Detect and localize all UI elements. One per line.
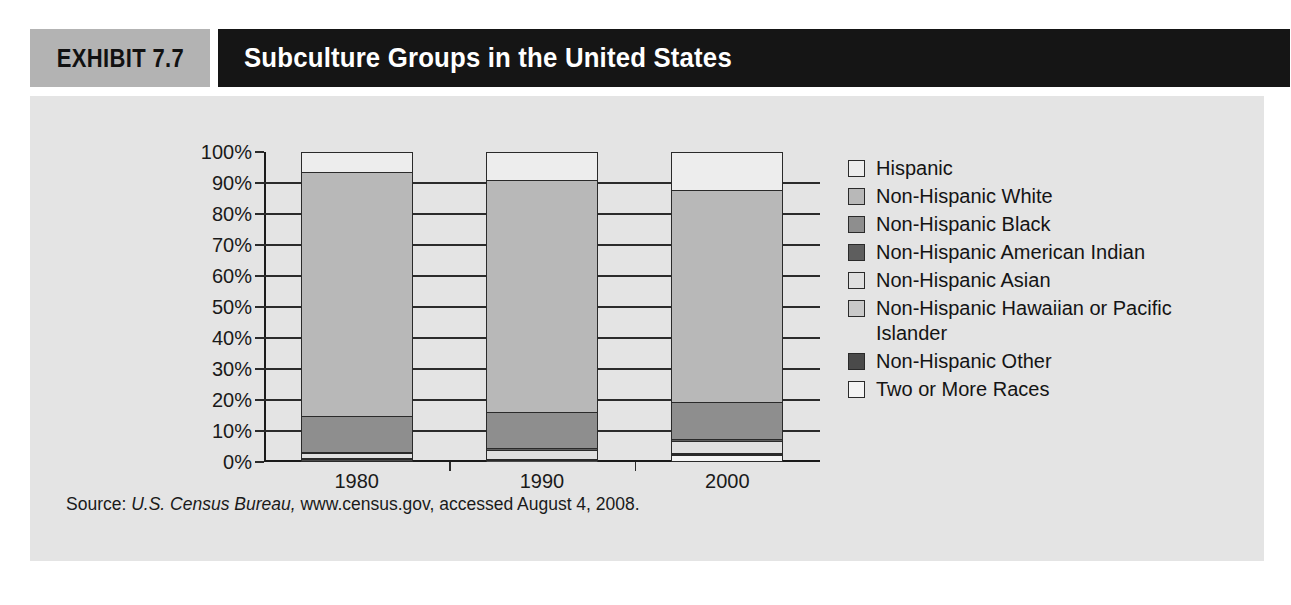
source-publication: U.S. Census Bureau, bbox=[131, 494, 295, 514]
legend-item[interactable]: Non-Hispanic Hawaiian or Pacific Islande… bbox=[848, 296, 1178, 346]
y-tick-label: 90% bbox=[212, 173, 252, 193]
bar-segment[interactable] bbox=[302, 153, 412, 173]
legend-item-label: Non-Hispanic Hawaiian or Pacific Islande… bbox=[876, 296, 1178, 346]
legend-item-label: Two or More Races bbox=[876, 377, 1049, 402]
bar-1990[interactable] bbox=[486, 152, 598, 462]
y-tick-mark bbox=[255, 430, 264, 432]
x-tick-label: 1990 bbox=[520, 470, 565, 493]
bar-segment[interactable] bbox=[672, 403, 782, 440]
y-tick-label: 100% bbox=[201, 142, 252, 162]
legend-item-label: Non-Hispanic Asian bbox=[876, 268, 1051, 293]
exhibit-page: EXHIBIT 7.7 Subculture Groups in the Uni… bbox=[0, 0, 1291, 605]
bar-segment[interactable] bbox=[302, 173, 412, 417]
legend-item-label: Non-Hispanic Other bbox=[876, 349, 1052, 374]
page-title: Subculture Groups in the United States bbox=[244, 42, 732, 74]
legend-item-label: Hispanic bbox=[876, 156, 953, 181]
y-axis-labels: 100%90%80%70%60%50%40%30%20%10%0% bbox=[180, 152, 258, 462]
plot-area bbox=[264, 152, 820, 462]
source-note: Source: U.S. Census Bureau, www.census.g… bbox=[66, 494, 640, 515]
y-tick-label: 20% bbox=[212, 390, 252, 410]
bar-segment[interactable] bbox=[487, 181, 597, 413]
bar-segment[interactable] bbox=[672, 191, 782, 403]
chart-panel: 100%90%80%70%60%50%40%30%20%10%0% 198019… bbox=[30, 96, 1264, 561]
y-tick-label: 0% bbox=[223, 452, 252, 472]
bar-segment[interactable] bbox=[672, 442, 782, 453]
y-tick-mark bbox=[255, 368, 264, 370]
legend-swatch-icon bbox=[848, 216, 865, 233]
exhibit-header: EXHIBIT 7.7 Subculture Groups in the Uni… bbox=[30, 29, 1290, 87]
chart-legend: HispanicNon-Hispanic WhiteNon-Hispanic B… bbox=[848, 156, 1178, 405]
legend-item[interactable]: Non-Hispanic Black bbox=[848, 212, 1178, 237]
exhibit-number-label: EXHIBIT 7.7 bbox=[56, 44, 183, 73]
legend-swatch-icon bbox=[848, 300, 865, 317]
y-tick-mark bbox=[255, 213, 264, 215]
legend-swatch-icon bbox=[848, 188, 865, 205]
legend-item-label: Non-Hispanic American Indian bbox=[876, 240, 1145, 265]
legend-item[interactable]: Non-Hispanic White bbox=[848, 184, 1178, 209]
y-tick-mark bbox=[255, 306, 264, 308]
y-tick-mark bbox=[255, 399, 264, 401]
legend-swatch-icon bbox=[848, 353, 865, 370]
legend-item[interactable]: Non-Hispanic American Indian bbox=[848, 240, 1178, 265]
y-tick-label: 10% bbox=[212, 421, 252, 441]
y-tick-mark bbox=[255, 461, 264, 463]
bar-segment[interactable] bbox=[672, 153, 782, 191]
bar-1980[interactable] bbox=[301, 152, 413, 462]
bar-segment[interactable] bbox=[302, 417, 412, 452]
y-tick-mark bbox=[255, 182, 264, 184]
exhibit-title-bar: Subculture Groups in the United States bbox=[218, 29, 1290, 87]
bar-segment[interactable] bbox=[487, 451, 597, 460]
chart: 100%90%80%70%60%50%40%30%20%10%0% 198019… bbox=[180, 152, 820, 472]
legend-item-label: Non-Hispanic White bbox=[876, 184, 1053, 209]
y-tick-label: 70% bbox=[212, 235, 252, 255]
legend-item[interactable]: Two or More Races bbox=[848, 377, 1178, 402]
bar-segment[interactable] bbox=[302, 460, 412, 461]
y-tick-mark bbox=[255, 151, 264, 153]
y-tick-label: 30% bbox=[212, 359, 252, 379]
bar-segment[interactable] bbox=[487, 153, 597, 181]
bar-2000[interactable] bbox=[671, 152, 783, 462]
legend-item-label: Non-Hispanic Black bbox=[876, 212, 1051, 237]
legend-swatch-icon bbox=[848, 381, 865, 398]
source-details: www.census.gov, accessed August 4, 2008. bbox=[296, 494, 640, 514]
y-tick-mark bbox=[255, 275, 264, 277]
legend-item[interactable]: Non-Hispanic Other bbox=[848, 349, 1178, 374]
legend-swatch-icon bbox=[848, 272, 865, 289]
x-tick-label: 1980 bbox=[334, 470, 379, 493]
y-tick-mark bbox=[255, 337, 264, 339]
y-tick-mark bbox=[255, 244, 264, 246]
x-tick-label: 2000 bbox=[705, 470, 750, 493]
bar-segment[interactable] bbox=[487, 413, 597, 449]
source-prefix: Source: bbox=[66, 494, 131, 514]
legend-swatch-icon bbox=[848, 160, 865, 177]
y-tick-label: 60% bbox=[212, 266, 252, 286]
y-tick-label: 50% bbox=[212, 297, 252, 317]
y-tick-label: 80% bbox=[212, 204, 252, 224]
legend-item[interactable]: Hispanic bbox=[848, 156, 1178, 181]
bar-segment[interactable] bbox=[672, 456, 782, 462]
y-tick-label: 40% bbox=[212, 328, 252, 348]
legend-item[interactable]: Non-Hispanic Asian bbox=[848, 268, 1178, 293]
legend-swatch-icon bbox=[848, 244, 865, 261]
exhibit-number-box: EXHIBIT 7.7 bbox=[30, 29, 210, 87]
header-divider bbox=[210, 29, 218, 87]
